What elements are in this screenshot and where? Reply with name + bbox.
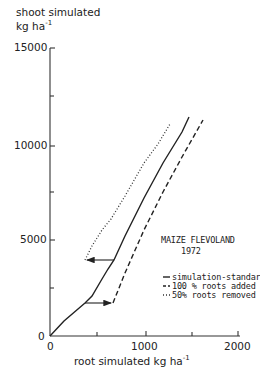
series-standard	[50, 117, 189, 336]
series-roots-removed	[85, 124, 170, 260]
chart-plot	[0, 0, 260, 378]
chart-title: MAIZE FLEVOLAND	[161, 235, 235, 245]
chart-year: 1972	[181, 246, 201, 256]
legend-roots-removed: 50% roots removed	[172, 290, 256, 300]
